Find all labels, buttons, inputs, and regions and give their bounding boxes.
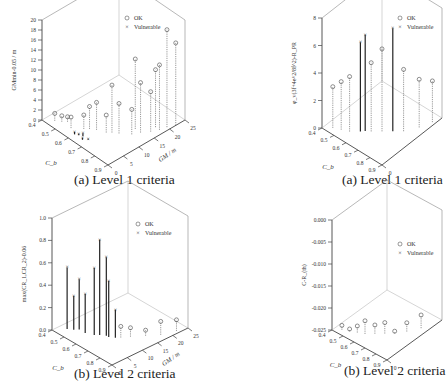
z-tick-label: 8 xyxy=(313,15,316,21)
x-tick-label: 0.6 xyxy=(63,346,70,352)
z-tick-label: 8 xyxy=(33,77,36,83)
x-tick xyxy=(350,342,354,344)
legend-label: OK xyxy=(134,15,143,21)
floor-back-line xyxy=(119,75,185,120)
data-point-vulnerable: × xyxy=(87,136,90,142)
z-axis-label: max(CR_1,CR_2)-0.06 xyxy=(21,246,28,302)
z-axis-label: φ_v(3f+4e^2/8f^2)-R_PR xyxy=(291,42,298,104)
z-tick-label: 0.6 xyxy=(39,260,46,266)
y-tick xyxy=(108,165,112,168)
x-tick-label: 0.8 xyxy=(81,158,88,164)
caption-a1: (a) Level 1 criteria xyxy=(74,172,175,188)
x-tick xyxy=(96,358,100,360)
y-axis-line xyxy=(382,118,442,165)
data-point-vulnerable: × xyxy=(72,293,75,299)
data-point-vulnerable: × xyxy=(107,278,110,284)
caption-b1: (b) Level 2 criteria xyxy=(74,366,176,382)
x-tick-label: 0.7 xyxy=(352,350,359,356)
z-tick-label: -0.015 xyxy=(312,283,326,289)
x-tick-label: 0.6 xyxy=(55,140,62,146)
x-tick xyxy=(342,143,346,145)
y-tick-label: 15 xyxy=(159,143,165,149)
legend-label: Vulnerable xyxy=(145,230,172,236)
z-axis-label: C-R_(th) xyxy=(301,264,308,286)
z-tick-label: 0.8 xyxy=(39,237,46,243)
y-tick-label: 25 xyxy=(193,333,199,339)
z-tick-label: 6 xyxy=(313,43,316,49)
y-tick xyxy=(173,335,177,338)
x-tick-label: 0.5 xyxy=(330,338,337,344)
x-tick xyxy=(372,354,376,356)
data-point-vulnerable: × xyxy=(81,135,84,141)
data-point-vulnerable: × xyxy=(73,129,76,135)
legend-ok-marker xyxy=(125,16,129,20)
legend-vulnerable-marker: × xyxy=(125,24,128,30)
y-tick-label: 5 xyxy=(130,161,133,167)
legend-label: Vulnerable xyxy=(134,24,161,30)
y-tick-label: 20 xyxy=(178,340,184,346)
floor-back-line xyxy=(382,81,442,118)
data-point-vulnerable: × xyxy=(105,254,108,260)
x-tick-label: 0.5 xyxy=(321,137,328,143)
y-tick-label: 10 xyxy=(148,355,154,361)
x-axis-label: C_b xyxy=(52,364,64,372)
chart-level1-phi: 024680.40.50.60.70.80.90φ_v(3f+4e^2/8f^2… xyxy=(282,0,433,170)
z-tick-label: 2 xyxy=(33,107,36,113)
x-tick-label: 0.8 xyxy=(363,356,370,362)
z-tick-label: 0.000 xyxy=(314,217,327,223)
z-tick-label: 0.2 xyxy=(39,305,46,311)
y-tick xyxy=(188,328,192,331)
x-tick xyxy=(330,135,334,137)
z-tick-label: 6 xyxy=(33,87,36,93)
x-tick-label: 0.7 xyxy=(345,152,352,158)
caption-a2: (a) Level 1 criteria xyxy=(342,172,443,188)
legend-label: OK xyxy=(407,15,416,21)
z-tick-label: -0.020 xyxy=(312,305,326,311)
data-point-vulnerable: × xyxy=(114,307,117,313)
panel-b1: 0.00.20.40.60.81.00.40.50.60.70.80.90510… xyxy=(0,200,220,365)
z-tick-label: 16 xyxy=(31,37,37,43)
x-tick-label: 0.6 xyxy=(333,145,340,151)
z-tick-label: 4 xyxy=(313,70,316,76)
y-axis-line xyxy=(108,120,185,165)
x-tick-label: 0.5 xyxy=(42,131,49,137)
data-point-vulnerable: × xyxy=(359,39,362,45)
x-tick xyxy=(104,165,108,167)
x-tick-label: 0.4 xyxy=(309,130,316,136)
x-tick-label: 0.7 xyxy=(68,149,75,155)
x-tick-label: 0.6 xyxy=(341,344,348,350)
data-point-vulnerable: × xyxy=(93,265,96,271)
x-tick xyxy=(378,165,382,167)
y-axis-line xyxy=(387,320,442,360)
top-left-edge xyxy=(42,0,119,20)
z-tick-label: -0.010 xyxy=(312,261,326,267)
x-tick-label: 0.4 xyxy=(29,122,36,128)
y-tick xyxy=(170,129,174,132)
y-tick xyxy=(154,138,158,141)
x-axis-line xyxy=(322,128,382,165)
y-tick xyxy=(142,350,146,353)
x-tick-label: 0.4 xyxy=(319,332,326,338)
legend-ok-marker xyxy=(398,16,402,20)
x-axis-label: C_b xyxy=(45,159,57,167)
y-tick-label: 15 xyxy=(163,348,169,354)
x-tick xyxy=(84,351,88,353)
chart-level1-gm: 024681012141618200.40.50.60.70.80.905101… xyxy=(0,0,220,170)
x-tick xyxy=(91,156,95,158)
x-tick xyxy=(64,138,68,140)
x-axis-label: C_b xyxy=(330,361,342,369)
legend-label: Vulnerable xyxy=(407,250,434,256)
y-tick xyxy=(185,120,189,123)
x-tick xyxy=(383,360,387,362)
legend-label: Vulnerable xyxy=(407,24,434,30)
data-point-vulnerable: × xyxy=(84,291,87,297)
legend-vulnerable-marker: × xyxy=(398,24,401,30)
data-point-vulnerable: × xyxy=(364,32,367,38)
y-tick-label: 25 xyxy=(190,125,196,131)
x-tick xyxy=(60,337,64,339)
top-back-edge xyxy=(382,0,442,8)
floor-back-line xyxy=(387,290,442,320)
x-tick xyxy=(354,150,358,152)
y-tick xyxy=(382,165,386,168)
chart-level2-cr: 0.00.20.40.60.81.00.40.50.60.70.80.90510… xyxy=(0,200,220,365)
